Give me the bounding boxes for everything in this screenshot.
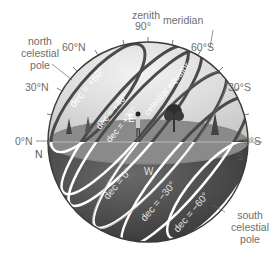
tick-0n: 0°N xyxy=(15,136,33,147)
scp-label-1: south xyxy=(230,210,270,221)
east-label: E xyxy=(128,113,135,124)
scp-label-3: pole xyxy=(230,234,270,245)
scp-label-2: celestial xyxy=(224,222,276,233)
celestial-sphere-diagram: dec = +60° dec = +40° dec = +30° dec = 0… xyxy=(0,0,277,258)
tick-30s: 30°S xyxy=(228,82,251,93)
meridian-label: meridian xyxy=(163,15,203,26)
tick-30n: 30°N xyxy=(25,82,48,93)
ncp-label-2: celestial xyxy=(13,48,67,59)
ncp-label-3: pole xyxy=(20,60,60,71)
tick-0s: 0°S xyxy=(244,136,261,147)
tick-60n: 60°N xyxy=(62,42,85,53)
south-point-label: S xyxy=(236,151,243,162)
ncp-label-1: north xyxy=(20,36,60,47)
west-label: W xyxy=(144,166,154,177)
tick-60s: 60°S xyxy=(191,42,214,53)
zenith-angle-label: 90° xyxy=(135,21,151,32)
north-point-label: N xyxy=(35,149,43,160)
